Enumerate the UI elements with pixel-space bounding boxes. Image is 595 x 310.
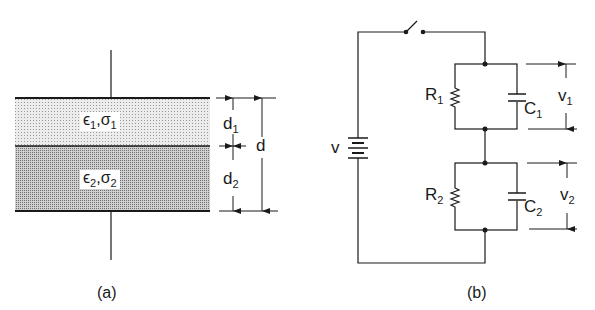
figure-a — [15, 50, 278, 260]
r2-label: R2 — [425, 186, 443, 206]
wire-right-top — [423, 32, 485, 64]
switch-contact-left — [404, 30, 409, 35]
node-bottom-2 — [483, 228, 488, 233]
layer-2-label: ϵ2,σ2 — [80, 170, 120, 189]
v1-label: v1 — [558, 87, 573, 107]
r1-label: R1 — [425, 86, 443, 106]
source-v-label: v — [331, 139, 340, 156]
wire-left-top — [358, 32, 406, 138]
figure-b — [348, 21, 577, 263]
layer-1-label: ϵ1,σ1 — [80, 112, 120, 131]
c1-label: C1 — [524, 100, 542, 120]
switch-blade — [406, 21, 417, 32]
node-top-2 — [483, 161, 488, 166]
rc1-loop — [455, 64, 517, 129]
node-top-1 — [483, 62, 488, 67]
figure-a-caption: (a) — [97, 285, 117, 301]
v2-label: v2 — [560, 186, 575, 206]
dim-d1-label: d1 — [223, 115, 239, 135]
dim-d2-label: d2 — [223, 170, 239, 190]
dim-d-label: d — [256, 137, 265, 154]
rc2-loop — [455, 163, 517, 230]
c2-label: C2 — [524, 198, 542, 218]
battery-icon — [348, 138, 368, 158]
wire-left-bottom — [358, 158, 485, 263]
figure-b-caption: (b) — [467, 285, 487, 301]
diagram-canvas — [0, 0, 595, 310]
